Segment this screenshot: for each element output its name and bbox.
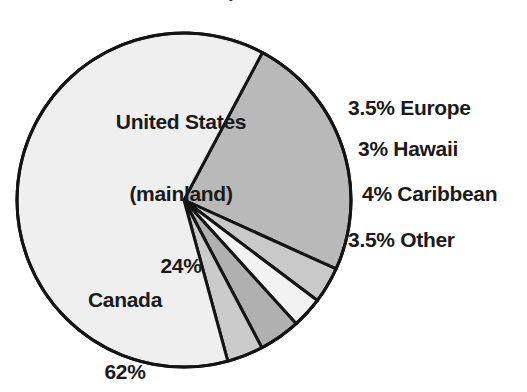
slice-label-canada-line1: Canada: [40, 288, 210, 312]
slice-label-other: 3.5% Other: [348, 228, 455, 252]
slice-label-caribbean: 4% Caribbean: [362, 182, 497, 206]
slice-label-canada: Canada 62%: [40, 240, 210, 392]
slice-label-united-states-line2: (mainland): [86, 182, 276, 206]
slice-label-canada-value: 62%: [40, 360, 210, 384]
slice-label-hawaii: 3% Hawaii: [358, 137, 458, 161]
slice-label-europe: 3.5% Europe: [348, 96, 471, 120]
slice-label-united-states-line1: United States: [86, 110, 276, 134]
pie-chart-figure: . United States (mainland) 24% Canada 62…: [0, 0, 527, 392]
